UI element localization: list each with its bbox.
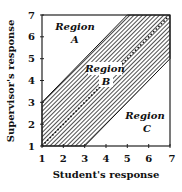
x-tick-4: 4 [103, 153, 110, 164]
region-a-label: Region A [54, 21, 94, 45]
x-axis-title: Student's response [53, 169, 160, 180]
y-tick-labels: 1 2 3 4 5 6 7 [28, 10, 35, 152]
y-tick-1: 1 [28, 141, 35, 152]
x-tick-2: 2 [60, 153, 67, 164]
y-tick-6: 6 [28, 31, 35, 42]
x-tick-1: 1 [39, 153, 46, 164]
y-tick-3: 3 [28, 97, 35, 108]
x-tick-5: 5 [124, 153, 131, 164]
region-c-label: Region C [124, 110, 164, 134]
x-tick-6: 6 [145, 153, 152, 164]
x-tick-3: 3 [81, 153, 88, 164]
region-a-label-line2: A [70, 34, 79, 45]
x-tick-7: 7 [169, 153, 176, 164]
y-axis-title: Supervisor's response [5, 20, 16, 143]
agreement-region-chart: 1 2 3 4 5 6 7 1 2 3 4 5 6 7 Student's re… [0, 0, 182, 192]
region-b-label-line2: B [101, 76, 110, 87]
x-tick-labels: 1 2 3 4 5 6 7 [39, 153, 176, 164]
y-tick-7: 7 [28, 10, 35, 21]
y-tick-5: 5 [28, 53, 35, 64]
y-tick-4: 4 [28, 75, 35, 86]
region-a-label-line1: Region [54, 21, 94, 32]
y-tick-2: 2 [28, 119, 35, 130]
region-c-label-line2: C [143, 123, 151, 134]
region-c-label-line1: Region [124, 110, 164, 121]
region-b-label-line1: Region [84, 63, 124, 74]
